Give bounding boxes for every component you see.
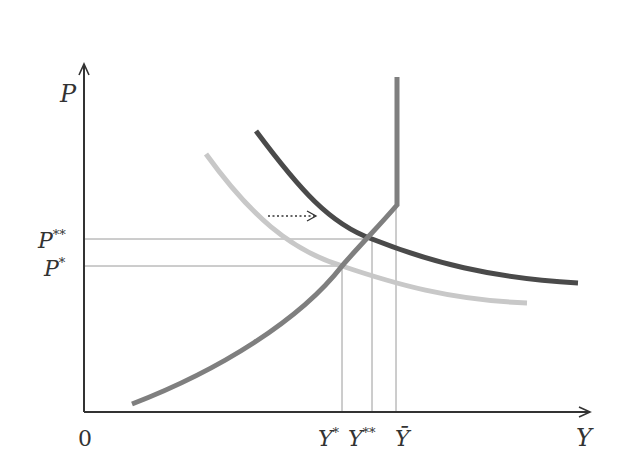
demand-curve-initial [206,154,527,303]
tick-label-p-star: P* [43,255,66,281]
tick-label-y-bar: Ȳ [395,426,412,451]
y-axis-label: P [59,80,77,108]
x-axis-label: Y [576,424,594,452]
guide-lines [84,205,396,412]
tick-label-y-double-star: Y** [348,425,376,451]
demand-curve-shifted [256,131,578,283]
tick-label-p-double-star: P** [37,227,66,253]
diagram-canvas: P Y 0 P** P* Y* Y** Ȳ [0,0,628,470]
tick-label-y-star: Y* [318,425,340,451]
origin-label: 0 [78,426,92,451]
supply-curve [132,77,397,404]
